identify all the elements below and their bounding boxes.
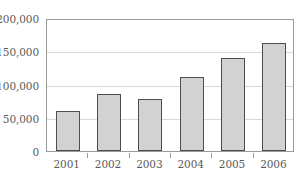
x-axis-tick — [211, 153, 212, 158]
bar[interactable] — [138, 99, 162, 151]
y-axis-tick-label: 50,000 — [3, 114, 39, 125]
y-axis-tick-label: 100,000 — [0, 80, 39, 91]
y-axis-tick-label: 200,000 — [0, 14, 39, 25]
x-axis-tick-label: 2001 — [53, 159, 79, 170]
bar-slot — [47, 20, 88, 151]
x-axis-tick — [253, 153, 254, 158]
x-axis-tick — [87, 153, 88, 158]
bar-slot — [212, 20, 253, 151]
bar[interactable] — [56, 111, 80, 151]
x-axis-tick-label: 2004 — [177, 159, 203, 170]
bar-slot — [88, 20, 129, 151]
x-axis-tick-label: 2002 — [95, 159, 121, 170]
bar-chart: 050,000100,000150,000200,000 20012002200… — [0, 0, 304, 177]
bars — [47, 20, 293, 151]
bar[interactable] — [180, 77, 204, 151]
bar-slot — [171, 20, 212, 151]
plot-area — [46, 19, 294, 152]
x-axis-tick-label: 2006 — [260, 159, 286, 170]
x-axis-tick-labels: 200120022003200420052006 — [46, 159, 294, 177]
x-axis-tick — [129, 153, 130, 158]
bar-slot — [254, 20, 295, 151]
bar[interactable] — [262, 43, 286, 151]
y-axis-tick-labels: 050,000100,000150,000200,000 — [0, 0, 45, 177]
bar[interactable] — [221, 58, 245, 151]
y-axis-tick-label: 150,000 — [0, 47, 39, 58]
y-axis-tick-label: 0 — [32, 147, 39, 158]
bar[interactable] — [97, 94, 121, 151]
bar-slot — [130, 20, 171, 151]
x-axis-tick-label: 2003 — [136, 159, 162, 170]
x-axis-tick-label: 2005 — [219, 159, 245, 170]
x-axis-tick — [170, 153, 171, 158]
